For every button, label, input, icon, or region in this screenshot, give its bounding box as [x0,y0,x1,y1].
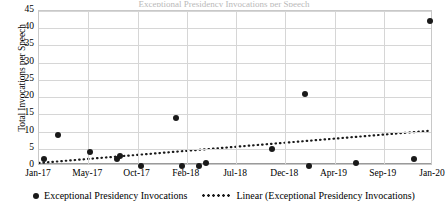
trendline-svg [39,11,431,164]
y-axis-tick-label: 40 [10,22,34,32]
gridline-horizontal [39,132,431,133]
chart-container: Exceptional Presidency Invocations per S… [0,0,448,208]
data-point [117,153,123,159]
gridline-vertical [88,11,89,164]
y-axis-tick-label: 45 [10,5,34,15]
gridline-vertical [335,11,336,164]
gridline-horizontal [39,45,431,46]
data-point [302,91,308,97]
trendline [39,131,431,163]
data-point [411,156,417,162]
data-point [353,160,359,166]
gridline-horizontal [39,149,431,150]
gridline-vertical [236,11,237,164]
y-axis-tick-label: 15 [10,108,34,118]
gridline-horizontal [39,11,431,12]
circle-marker-icon [33,193,39,199]
y-axis-tick-label: 10 [10,126,34,136]
data-point [87,149,93,155]
y-axis-tick-label: 25 [10,74,34,84]
chart-legend: Exceptional Presidency Invocations Linea… [0,190,448,201]
legend-label-scatter: Exceptional Presidency Invocations [44,190,187,201]
y-axis-tick-label: 5 [10,143,34,153]
x-axis-tick-label: Jan-20 [402,168,448,178]
y-axis-tick-label: 30 [10,57,34,67]
gridline-horizontal [39,97,431,98]
x-axis-line [39,163,431,164]
gridline-horizontal [39,28,431,29]
gridline-horizontal [39,114,431,115]
gridline-horizontal [39,63,431,64]
data-point [173,115,179,121]
gridline-vertical [285,11,286,164]
data-point [203,160,209,166]
y-axis-tick-label: 35 [10,39,34,49]
gridline-vertical [384,11,385,164]
legend-label-trendline: Linear (Exceptional Presidency Invocatio… [236,190,415,201]
data-point [41,156,47,162]
legend-item-scatter: Exceptional Presidency Invocations [33,190,187,201]
data-point [427,18,433,24]
gridline-vertical [187,11,188,164]
plot-area [38,10,432,165]
data-point [55,132,61,138]
gridline-horizontal [39,80,431,81]
y-axis-tick-label: 20 [10,91,34,101]
data-point [269,146,275,152]
dotted-line-icon [201,194,231,197]
gridline-vertical [138,11,139,164]
legend-item-trendline: Linear (Exceptional Presidency Invocatio… [201,190,415,201]
